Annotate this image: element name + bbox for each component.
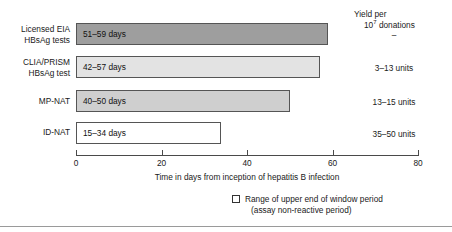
- category-label-line1: ID-NAT: [4, 127, 70, 138]
- category-label-line2: HBsAg test: [4, 68, 70, 79]
- legend-text: Range of upper end of window period (ass…: [245, 194, 383, 216]
- category-label-line1: CLIA/PRISM: [4, 57, 70, 68]
- category-label-line1: MP-NAT: [4, 96, 70, 107]
- yield-value-mp-nat: 13–15 units: [340, 97, 448, 107]
- bar-range-label: 51–59 days: [77, 29, 126, 39]
- x-axis-tick: [76, 150, 77, 156]
- yield-header-rest: donations: [377, 20, 415, 30]
- category-label-clia-prism: CLIA/PRISM HBsAg test: [4, 57, 70, 78]
- x-axis-tick: [418, 150, 419, 156]
- legend-line2: (assay non-reactive period): [245, 205, 383, 216]
- bar-mp-nat: 40–50 days: [76, 90, 290, 112]
- x-axis-tick-label: 40: [232, 158, 262, 168]
- hepatitis-b-window-period-chart: Yield per 107 donations Licensed EIA HBs…: [0, 0, 452, 232]
- category-label-mp-nat: MP-NAT: [4, 96, 70, 107]
- yield-value-clia-prism: 3–13 units: [340, 63, 448, 73]
- bar-range-label: 42–57 days: [77, 62, 126, 72]
- bar-range-label: 15–34 days: [77, 128, 126, 138]
- category-label-line2: HBsAg tests: [4, 35, 70, 46]
- bottom-divider: [0, 226, 452, 227]
- x-axis-tick-label: 0: [61, 158, 91, 168]
- bar-licensed-eia: 51–59 days: [76, 23, 328, 45]
- bar-range-label: 40–50 days: [77, 96, 126, 106]
- x-axis-tick: [247, 150, 248, 156]
- category-label-line1: Licensed EIA: [4, 24, 70, 35]
- yield-header-line1: Yield per: [340, 9, 452, 20]
- bar-clia-prism: 42–57 days: [76, 56, 320, 78]
- legend-swatch-icon: [232, 195, 240, 203]
- x-axis-tick-label: 80: [403, 158, 433, 168]
- yield-header-base: 10: [364, 20, 373, 30]
- category-label-id-nat: ID-NAT: [4, 127, 70, 138]
- x-axis-tick: [333, 150, 334, 156]
- x-axis-tick-label: 20: [147, 158, 177, 168]
- chart-legend: Range of upper end of window period (ass…: [232, 194, 383, 216]
- legend-line1: Range of upper end of window period: [245, 194, 383, 205]
- bar-id-nat: 15–34 days: [76, 122, 221, 144]
- yield-column-header: Yield per 107 donations: [340, 9, 452, 31]
- x-axis-tick-label: 60: [318, 158, 348, 168]
- x-axis-tick: [162, 150, 163, 156]
- category-label-licensed-eia: Licensed EIA HBsAg tests: [4, 24, 70, 45]
- yield-value-licensed-eia: –: [340, 30, 448, 40]
- x-axis-title: Time in days from inception of hepatitis…: [76, 172, 418, 182]
- yield-value-id-nat: 35–50 units: [340, 129, 448, 139]
